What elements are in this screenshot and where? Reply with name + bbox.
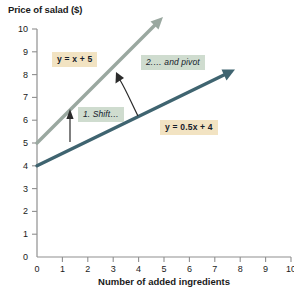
y-tick-9: 9 <box>12 47 28 57</box>
equation-label-upper: y = x + 5 <box>52 52 97 67</box>
x-tick-8: 8 <box>232 264 248 274</box>
x-tick-10: 10 <box>283 264 294 274</box>
step-label-shift: 1. Shift… <box>78 107 124 122</box>
y-tick-7: 7 <box>12 92 28 102</box>
x-tick-0: 0 <box>29 264 45 274</box>
x-tick-1: 1 <box>54 264 70 274</box>
y-tick-0: 0 <box>12 252 28 262</box>
line-series-upper <box>37 17 163 143</box>
x-tick-2: 2 <box>80 264 96 274</box>
x-axis-ticks <box>62 257 291 262</box>
line-series-lower <box>37 70 235 166</box>
x-tick-7: 7 <box>207 264 223 274</box>
step-label-pivot: 2.… and pivot <box>141 55 205 70</box>
y-tick-4: 4 <box>12 161 28 171</box>
salad-price-chart: Price of salad ($) <box>0 0 294 298</box>
y-tick-6: 6 <box>12 115 28 125</box>
x-tick-4: 4 <box>131 264 147 274</box>
x-tick-5: 5 <box>156 264 172 274</box>
y-tick-1: 1 <box>12 229 28 239</box>
y-axis-ticks <box>32 29 37 234</box>
x-tick-6: 6 <box>181 264 197 274</box>
x-tick-9: 9 <box>258 264 274 274</box>
y-tick-5: 5 <box>12 138 28 148</box>
y-tick-10: 10 <box>12 24 28 34</box>
y-tick-2: 2 <box>12 206 28 216</box>
x-tick-3: 3 <box>105 264 121 274</box>
chart-canvas <box>0 0 294 298</box>
equation-label-lower: y = 0.5x + 4 <box>160 120 218 135</box>
x-axis-title: Number of added ingredients <box>0 276 294 287</box>
y-tick-8: 8 <box>12 70 28 80</box>
y-tick-3: 3 <box>12 184 28 194</box>
arrowhead-pivot <box>116 72 125 84</box>
